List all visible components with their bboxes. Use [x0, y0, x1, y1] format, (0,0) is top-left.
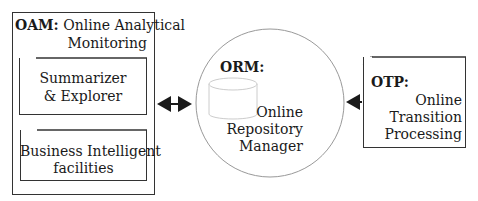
database-cylinder-icon: [209, 78, 257, 119]
otp-line1: Online: [415, 92, 462, 109]
orm-title: ORM:: [220, 59, 265, 76]
oam-title-line1: OAM: Online Analytical: [15, 17, 185, 34]
business-line2: facilities: [20, 160, 147, 177]
oam-title-prefix: OAM:: [15, 17, 59, 33]
oam-title-text1: Online Analytical: [63, 17, 185, 33]
otp-title: OTP:: [371, 74, 409, 91]
otp-line2: Transition: [389, 109, 462, 126]
summarizer-line1: Summarizer: [19, 70, 147, 87]
summarizer-line2: & Explorer: [19, 88, 147, 105]
orm-line2: Repository: [226, 121, 303, 138]
oam-title-line2: Monitoring: [68, 35, 147, 52]
orm-line3: Manager: [239, 138, 303, 155]
business-line1: Business Intelligent: [20, 143, 147, 160]
otp-line3: Processing: [385, 126, 463, 143]
orm-line1: Online: [256, 104, 303, 121]
